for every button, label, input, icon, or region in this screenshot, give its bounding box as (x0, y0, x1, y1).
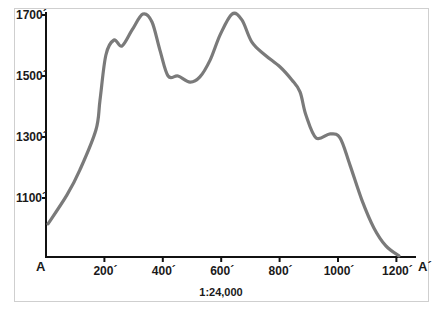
y-tick-label: 1500´ (16, 69, 47, 83)
elevation-profile-chart: 1100´1300´1500´1700´ 200´400´600´800´100… (0, 0, 441, 311)
x-tick-label: 800´ (269, 264, 293, 278)
x-tick-label: 600´ (210, 264, 234, 278)
scale-label: 1:24,000 (199, 286, 242, 298)
x-tick-label: 400´ (152, 264, 176, 278)
x-tick-label: 200´ (93, 264, 117, 278)
x-tick-label: 1200´ (382, 264, 413, 278)
y-tick-label: 1300´ (16, 130, 47, 144)
y-tick-label: 1700´ (16, 8, 47, 22)
y-tick-label: 1100´ (16, 191, 46, 205)
start-label: A (36, 259, 46, 274)
end-label: A´ (418, 259, 432, 274)
x-tick-label: 1000´ (324, 264, 355, 278)
